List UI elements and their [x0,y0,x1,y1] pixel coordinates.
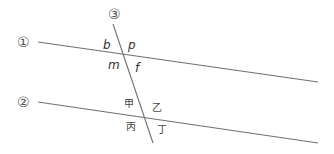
angle-label-jia: 甲 [124,98,134,109]
line-1-label: ① [17,34,30,50]
line-2 [38,102,318,143]
angle-label-f: f [135,61,141,75]
line-1 [38,42,318,82]
line-3-label: ③ [108,6,121,22]
angle-label-ding: 丁 [157,124,167,135]
line-2-label: ② [17,94,30,110]
angle-label-yi: 乙 [152,102,162,113]
line-labels-group: ①②③ [17,6,121,110]
parallel-lines-transversal-diagram: ①②③ bpmf甲乙丙丁 [0,0,334,154]
lines-group [38,24,318,143]
angle-label-bing: 丙 [126,121,136,132]
angle-label-b: b [103,38,111,52]
angle-label-m: m [108,58,120,72]
angle-label-p: p [127,38,136,52]
